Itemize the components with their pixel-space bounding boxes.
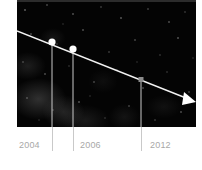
leader-line-ext-2012	[141, 127, 142, 151]
data-point-2004	[48, 38, 55, 45]
leader-line-ext-2004	[52, 127, 53, 151]
leader-line-ext-2006	[73, 127, 74, 151]
axis-tick-label-2004: 2004	[19, 141, 40, 150]
axis-tick-label-2012: 2012	[150, 141, 171, 150]
data-point-2006	[69, 45, 76, 52]
axis-label-band: 2004 2006 2012	[0, 127, 202, 170]
arrowhead-icon	[182, 92, 196, 105]
space-photo-panel	[17, 0, 196, 127]
trend-line	[17, 31, 191, 100]
axis-tick-label-2006: 2006	[80, 141, 101, 150]
data-point-2012	[139, 77, 144, 82]
chart-figure: 2004 2006 2012	[0, 0, 202, 170]
trend-overlay	[17, 0, 196, 127]
